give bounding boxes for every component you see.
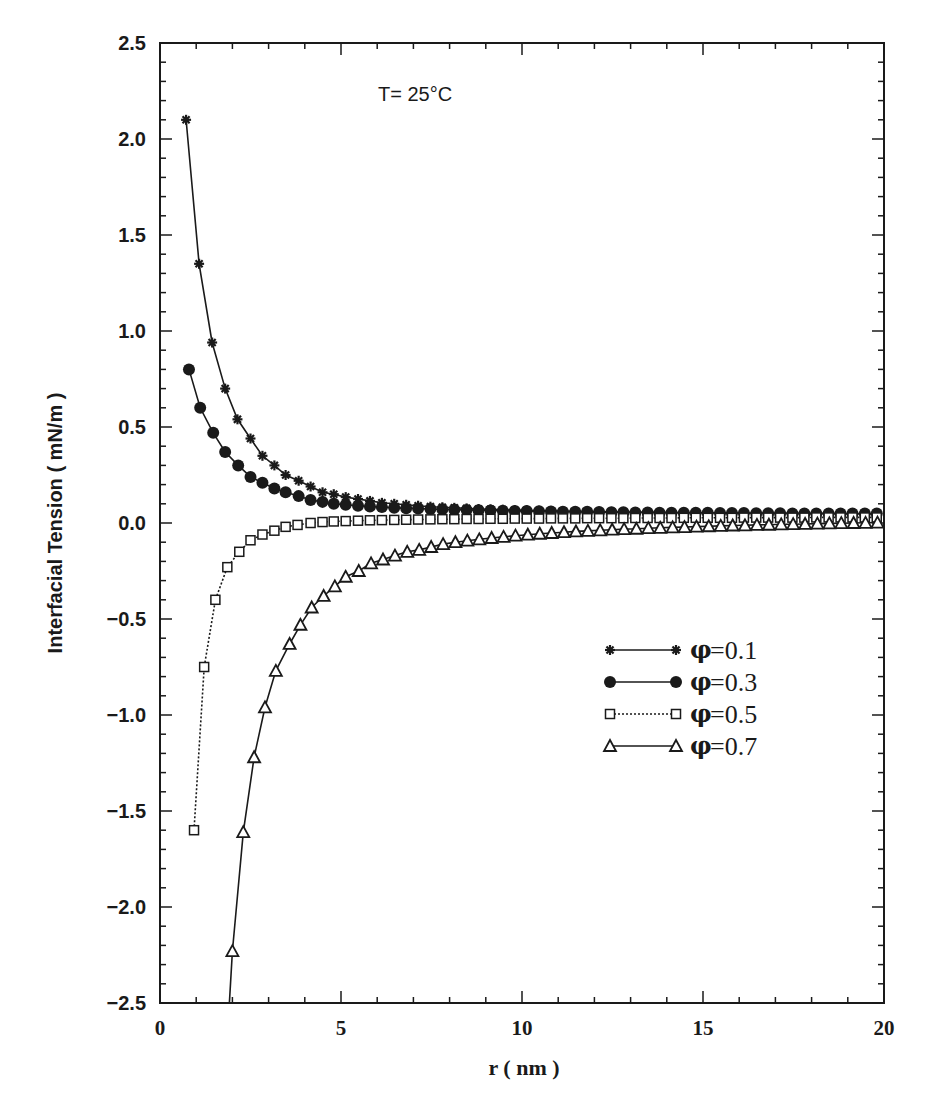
legend-label: =0.3: [710, 668, 757, 697]
y-tick-label: −1.5: [107, 800, 146, 822]
x-axis-ticks: 05101520: [155, 43, 895, 1040]
y-axis-title: Interfacial Tension ( mN/m ): [44, 393, 66, 654]
legend-item: φ=0.1: [605, 635, 757, 665]
x-tick-label: 20: [874, 1016, 895, 1040]
legend-item: φ=0.5: [606, 699, 758, 729]
x-tick-label: 10: [512, 1016, 533, 1040]
x-tick-label: 5: [336, 1016, 347, 1040]
legend-label: =0.5: [710, 700, 757, 729]
y-tick-label: 0.5: [118, 416, 146, 438]
legend-phi-symbol: φ: [690, 731, 712, 760]
legend-phi-symbol: φ: [690, 699, 712, 728]
legend-item: φ=0.3: [604, 667, 757, 697]
y-tick-label: 0.0: [118, 512, 146, 534]
legend: φ=0.1φ=0.3φ=0.5φ=0.7: [604, 635, 757, 761]
y-tick-label: −0.5: [107, 608, 146, 630]
chart-figure: 2.52.01.51.00.50.0−0.5−1.0−1.5−2.0−2.5 0…: [0, 0, 929, 1107]
series-filled-circle: [183, 363, 883, 519]
x-axis-title: r ( nm ): [488, 1055, 559, 1080]
y-tick-label: 1.5: [118, 224, 146, 246]
series-open-triangle: [226, 517, 883, 1013]
legend-phi-symbol: φ: [690, 635, 712, 664]
legend-phi-symbol: φ: [690, 667, 712, 696]
legend-item: φ=0.7: [604, 731, 757, 761]
series-open-square: [190, 513, 882, 835]
y-tick-label: −1.0: [107, 704, 146, 726]
x-tick-label: 15: [693, 1016, 714, 1040]
y-tick-label: 1.0: [118, 320, 146, 342]
legend-label: =0.7: [710, 732, 757, 761]
y-tick-label: 2.0: [118, 128, 146, 150]
y-tick-label: 2.5: [118, 32, 146, 54]
series-asterisk: [181, 115, 882, 519]
x-tick-label: 0: [155, 1016, 166, 1040]
y-tick-label: −2.0: [107, 896, 146, 918]
legend-label: =0.1: [710, 636, 757, 665]
y-tick-label: −2.5: [107, 992, 146, 1014]
series-layer: [181, 115, 883, 1013]
temperature-annotation: T= 25°C: [378, 83, 452, 105]
